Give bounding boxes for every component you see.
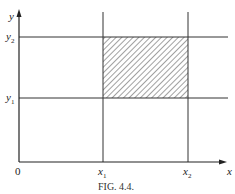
- hatched-region: [103, 37, 188, 98]
- x1-label: x1: [97, 165, 107, 180]
- figure-canvas: y x 0 y2 y1 x1 x2 FIG. 4.4.: [0, 0, 235, 194]
- y-axis-arrow-icon: [17, 9, 22, 17]
- figure-caption: FIG. 4.4.: [98, 181, 134, 192]
- x-axis-label: x: [226, 165, 232, 177]
- origin-label: 0: [15, 165, 21, 177]
- y2-label: y2: [5, 30, 15, 45]
- x2-label: x2: [182, 165, 192, 180]
- y1-label: y1: [5, 91, 15, 106]
- y-axis-label: y: [8, 10, 14, 22]
- x-axis-arrow-icon: [219, 160, 227, 165]
